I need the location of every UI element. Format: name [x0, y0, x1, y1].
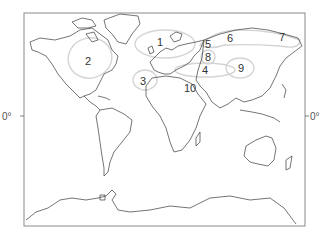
- region-label-2: 2: [85, 55, 91, 67]
- region-label-3: 3: [140, 75, 146, 87]
- equator-label-left: 0°: [2, 111, 12, 122]
- region-label-1: 1: [157, 36, 163, 48]
- region-label-10: 10: [184, 82, 196, 94]
- region-label-6: 6: [227, 32, 233, 44]
- region-label-4: 4: [202, 64, 208, 76]
- equator-label-right: 0°: [310, 111, 320, 122]
- world-map: 0° 0° 1 2 3 4 5 6 7 8 9 10: [0, 0, 328, 232]
- region-label-5: 5: [205, 38, 211, 50]
- region-label-9: 9: [238, 62, 244, 74]
- region-label-7: 7: [279, 31, 285, 43]
- region-label-8: 8: [205, 51, 211, 63]
